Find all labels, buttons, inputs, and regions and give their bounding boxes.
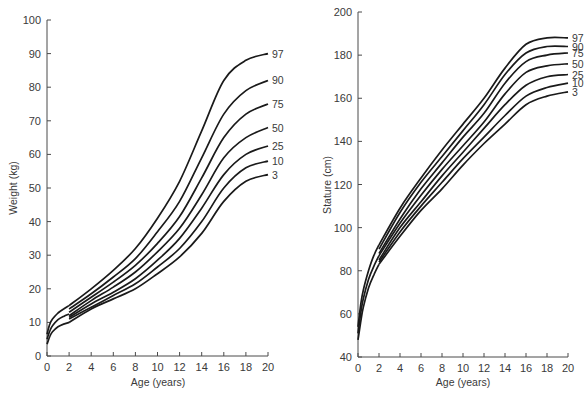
y-axis-label-stature: Stature (cm): [321, 156, 333, 214]
x-tick-label: 8: [132, 361, 138, 373]
stature-percentile-curves: 9790755025103: [358, 32, 584, 340]
x-tick-label: 14: [196, 361, 208, 373]
percentile-label-3: 3: [272, 169, 278, 181]
y-tick-label: 60: [340, 308, 352, 320]
y-tick-label: 120: [334, 179, 352, 191]
percentile-curve-10: [379, 83, 568, 262]
x-tick-label: 0: [355, 362, 361, 374]
x-axis-label-age: Age (years): [131, 376, 185, 388]
x-tick-label: 16: [520, 362, 532, 374]
percentile-curve-90: [69, 81, 268, 310]
growth-charts: Weight (kg) Age (years) 0102030405060708…: [0, 0, 588, 405]
weight-chart: Weight (kg) Age (years) 0102030405060708…: [7, 14, 284, 388]
y-tick-label: 50: [29, 182, 41, 194]
x-tick-label: 20: [562, 362, 574, 374]
percentile-label-10: 10: [272, 155, 284, 167]
y-tick-label: 100: [334, 222, 352, 234]
y-tick-label: 70: [29, 115, 41, 127]
y-tick-label: 0: [35, 350, 41, 362]
x-tick-label: 2: [376, 362, 382, 374]
x-tick-label: 14: [499, 362, 511, 374]
percentile-label-25: 25: [272, 140, 284, 152]
infant-curve-lower: [47, 322, 69, 344]
y-tick-label: 100: [23, 14, 41, 26]
x-tick-label: 18: [240, 361, 252, 373]
x-tick-label: 16: [218, 361, 230, 373]
weight-axes: 010203040506070809010002468101214161820: [23, 14, 274, 373]
percentile-label-3: 3: [572, 86, 578, 98]
weight-percentile-curves: 9790755025103: [47, 48, 284, 345]
x-tick-label: 4: [88, 361, 94, 373]
percentile-curve-25: [379, 75, 568, 261]
x-tick-label: 12: [173, 361, 185, 373]
x-tick-label: 8: [439, 362, 445, 374]
y-axis-label-weight: Weight (kg): [7, 161, 19, 215]
percentile-label-90: 90: [272, 74, 284, 86]
y-tick-label: 40: [29, 216, 41, 228]
x-tick-label: 6: [110, 361, 116, 373]
x-tick-label: 4: [397, 362, 403, 374]
x-tick-label: 0: [44, 361, 50, 373]
percentile-label-50: 50: [272, 122, 284, 134]
y-tick-label: 40: [340, 351, 352, 363]
percentile-curve-75: [69, 104, 268, 312]
x-tick-label: 12: [478, 362, 490, 374]
y-tick-label: 160: [334, 92, 352, 104]
x-tick-label: 6: [418, 362, 424, 374]
stature-chart: Stature (cm) Age (years) 406080100120140…: [321, 6, 584, 388]
y-tick-label: 80: [29, 81, 41, 93]
x-axis-label-age: Age (years): [436, 376, 490, 388]
x-tick-label: 2: [66, 361, 72, 373]
stature-axes: 4060801001201401601802000246810121416182…: [334, 6, 574, 374]
y-tick-label: 20: [29, 283, 41, 295]
y-tick-label: 10: [29, 316, 41, 328]
percentile-label-97: 97: [272, 48, 284, 60]
y-tick-label: 60: [29, 148, 41, 160]
x-tick-label: 18: [541, 362, 553, 374]
percentile-curve-97: [69, 54, 268, 306]
y-tick-label: 200: [334, 6, 352, 18]
y-tick-label: 180: [334, 49, 352, 61]
x-tick-label: 10: [151, 361, 163, 373]
y-tick-label: 80: [340, 265, 352, 277]
percentile-label-75: 75: [272, 98, 284, 110]
x-tick-label: 20: [262, 361, 274, 373]
y-tick-label: 140: [334, 135, 352, 147]
x-tick-label: 10: [457, 362, 469, 374]
y-tick-label: 30: [29, 249, 41, 261]
y-tick-label: 90: [29, 48, 41, 60]
